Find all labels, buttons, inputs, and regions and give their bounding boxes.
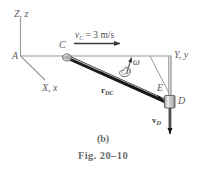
caption-part-label: (b)	[0, 134, 206, 144]
angular-velocity-label: ω	[133, 58, 140, 68]
point-label-c: C	[59, 40, 66, 50]
velocity-c-value: = 3 m/s	[86, 30, 115, 40]
axis-label-y-sub: , y	[179, 49, 188, 60]
axis-label-z-sub: , z	[20, 8, 29, 19]
velocity-c-subscript: C	[79, 34, 83, 41]
point-label-e: E	[157, 83, 163, 93]
caption-figure-number: Fig. 20–10	[0, 151, 206, 162]
figure-20-10b: Z, z Y, y X, x A C E D vC = 3 m/s ω rDC …	[0, 0, 206, 171]
axis-label-y: Y, y	[174, 50, 188, 60]
axis-x-line	[21, 56, 46, 80]
axis-label-x-sub: , x	[48, 82, 57, 93]
collar-c	[62, 54, 71, 61]
position-vector-rdc-label: rDC	[101, 86, 114, 96]
point-label-a: A	[12, 51, 18, 61]
collar-d	[164, 96, 175, 109]
velocity-d-label: vD	[152, 116, 161, 126]
axis-label-z: Z, z	[14, 9, 28, 19]
axis-label-x: X, x	[42, 83, 58, 93]
velocity-c-label: vC = 3 m/s	[75, 31, 114, 41]
point-label-d: D	[178, 96, 185, 106]
position-vector-subscript: DC	[105, 89, 114, 96]
velocity-d-subscript: D	[157, 119, 162, 126]
angular-velocity-omega	[120, 58, 132, 77]
